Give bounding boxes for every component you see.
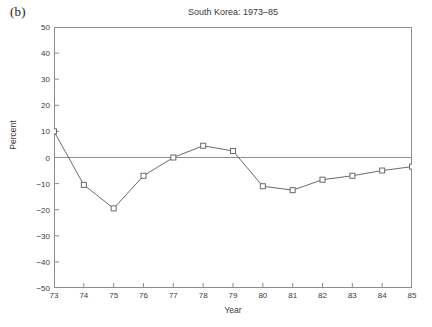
data-point-marker	[320, 177, 325, 182]
y-tick-label: −30	[20, 231, 50, 240]
x-tick-label: 74	[72, 291, 96, 300]
x-tick-label: 82	[311, 291, 335, 300]
y-tick-label: 10	[20, 127, 50, 136]
plot-area	[54, 27, 412, 288]
x-tick-label: 83	[340, 291, 364, 300]
data-series-line	[54, 131, 412, 208]
data-point-marker	[111, 206, 116, 211]
data-point-markers	[54, 129, 412, 211]
figure-panel: (b) South Korea: 1973–85 50403020100−10−…	[0, 0, 432, 327]
x-tick-label: 79	[221, 291, 245, 300]
data-point-marker	[290, 188, 295, 193]
panel-label: (b)	[10, 4, 26, 20]
y-tick-label: 40	[20, 49, 50, 58]
data-point-marker	[54, 129, 57, 134]
x-axis-tick-labels: 73747576777879808182838485	[54, 291, 412, 305]
data-point-marker	[171, 155, 176, 160]
data-point-marker	[410, 164, 413, 169]
y-tick-label: −20	[20, 205, 50, 214]
x-tick-label: 80	[251, 291, 275, 300]
y-tick-label: −40	[20, 257, 50, 266]
y-tick-label: 50	[20, 23, 50, 32]
y-tick-label: 0	[20, 153, 50, 162]
y-tick-label: 30	[20, 75, 50, 84]
data-point-marker	[141, 173, 146, 178]
y-tick-label: −10	[20, 179, 50, 188]
x-tick-label: 75	[102, 291, 126, 300]
x-tick-label: 73	[42, 291, 66, 300]
data-point-marker	[350, 173, 355, 178]
chart-title: South Korea: 1973–85	[54, 7, 412, 17]
x-tick-label: 78	[191, 291, 215, 300]
data-point-marker	[81, 182, 86, 187]
x-tick-label: 76	[132, 291, 156, 300]
x-tick-label: 81	[281, 291, 305, 300]
x-tick-label: 77	[161, 291, 185, 300]
x-tick-label: 85	[400, 291, 424, 300]
data-point-marker	[260, 184, 265, 189]
x-axis-title: Year	[54, 305, 412, 315]
x-tick-label: 84	[370, 291, 394, 300]
data-point-marker	[380, 168, 385, 173]
y-tick-label: 20	[20, 101, 50, 110]
y-axis-title: Percent	[8, 105, 18, 165]
data-point-marker	[231, 148, 236, 153]
y-axis-tick-labels: 50403020100−10−20−30−40−50	[16, 27, 50, 288]
data-point-marker	[201, 143, 206, 148]
